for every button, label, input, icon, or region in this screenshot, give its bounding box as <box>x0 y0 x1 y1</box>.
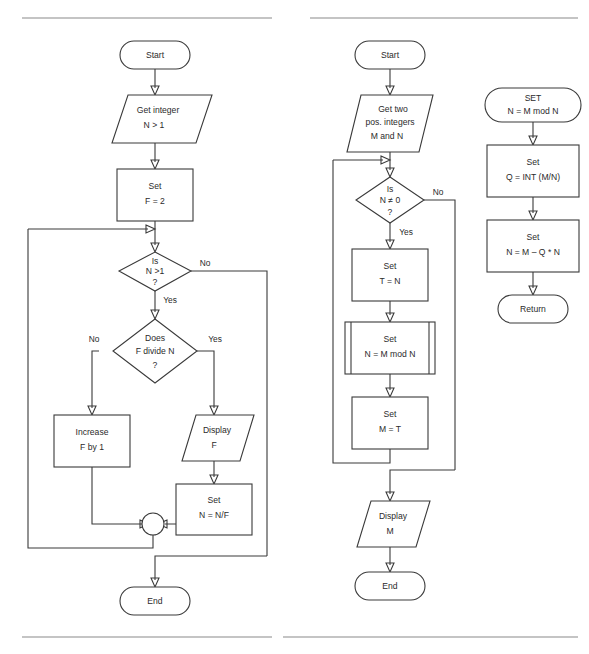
node-label-line-2: Q = INT (M/N) <box>506 172 560 182</box>
node-label-line-2: N = M mod N <box>508 106 559 116</box>
node-f3-set-n[interactable]: Set N = M – Q * N <box>487 220 579 272</box>
node-f2-decision-n-ne-0[interactable]: Is N ≠ 0 ? <box>356 177 424 223</box>
edge-label-f1-dec1-yes: Yes <box>163 295 177 305</box>
node-f3-set-terminal[interactable]: SET N = M mod N <box>485 88 581 122</box>
flowchart-mod-subroutine: SET N = M mod N Set Q = INT (M/N) Set N … <box>485 88 581 323</box>
node-label: Start <box>381 50 400 60</box>
edge-label-f2-dec-yes: Yes <box>399 227 413 237</box>
node-label: End <box>382 581 398 591</box>
node-label-line-1: Set <box>527 232 541 242</box>
node-label: End <box>147 596 163 606</box>
node-f1-get-integer[interactable]: Get integer N > 1 <box>112 95 212 143</box>
node-label-line-2: N = M mod N <box>365 349 416 359</box>
node-label-line-1: Increase <box>76 427 109 437</box>
io-parallelogram-shape <box>182 415 254 461</box>
node-label-line-1: Get integer <box>137 105 180 115</box>
node-f1-end[interactable]: End <box>120 587 190 615</box>
node-label: Return <box>520 304 546 314</box>
node-label-line-1: Set <box>384 409 398 419</box>
node-f2-display-m[interactable]: Display M <box>357 501 430 547</box>
node-label-line-1: Set <box>149 181 163 191</box>
edge-label-f1-dec2-no: No <box>89 334 100 344</box>
node-f2-start[interactable]: Start <box>355 41 425 69</box>
node-label-line-2: N >1 <box>146 266 165 276</box>
node-label-line-2: F by 1 <box>80 442 104 452</box>
node-label: Start <box>146 50 165 60</box>
edge-label-f1-dec2-yes: Yes <box>208 334 222 344</box>
node-f3-return[interactable]: Return <box>498 295 568 323</box>
node-f2-set-t[interactable]: Set T = N <box>352 249 428 301</box>
process-rect-shape <box>487 220 579 272</box>
node-label-line-3: ? <box>388 207 393 217</box>
process-rect-shape <box>117 169 193 221</box>
flowchart-prime-factorization: Start Get integer N > 1 Set F = 2 Is N >… <box>28 41 267 615</box>
node-label-line-1: SET <box>525 93 542 103</box>
node-label-line-2: M = T <box>379 424 402 434</box>
node-label-line-2: pos. integers <box>365 117 414 127</box>
flowchart-canvas: Start Get integer N > 1 Set F = 2 Is N >… <box>0 0 589 654</box>
node-f1-decision-f-divides-n[interactable]: Does F divide N ? <box>113 319 197 383</box>
node-f2-end[interactable]: End <box>355 572 425 600</box>
node-label-line-1: Get two <box>378 104 408 114</box>
node-label-line-1: Does <box>145 333 165 343</box>
io-parallelogram-shape <box>112 95 212 143</box>
node-f2-set-m[interactable]: Set M = T <box>352 397 428 449</box>
node-label-line-2: F divide N <box>136 346 175 356</box>
node-label-line-1: Set <box>384 261 398 271</box>
node-label-line-1: Set <box>384 334 398 344</box>
node-label-line-2: T = N <box>379 276 400 286</box>
predefined-process-rect-shape <box>345 322 435 374</box>
process-rect-shape <box>487 145 579 197</box>
node-label-line-1: Display <box>203 425 232 435</box>
process-rect-shape <box>352 249 428 301</box>
node-label-line-2: N > 1 <box>144 120 165 130</box>
node-label-line-2: F <box>211 440 216 450</box>
node-f1-set-f[interactable]: Set F = 2 <box>117 169 193 221</box>
io-parallelogram-shape <box>357 501 430 547</box>
flowchart-euclidean-gcd: Start Get two pos. integers M and N Is N… <box>333 41 455 600</box>
node-label-line-3: ? <box>153 360 158 370</box>
process-rect-shape <box>54 415 130 467</box>
node-label-line-2: N ≠ 0 <box>380 195 401 205</box>
node-label-line-2: M <box>386 526 393 536</box>
node-label-line-1: Is <box>152 256 159 266</box>
node-f2-get-two-integers[interactable]: Get two pos. integers M and N <box>347 95 433 152</box>
node-label-line-2: F = 2 <box>145 196 165 206</box>
process-rect-shape <box>352 397 428 449</box>
flowchart-page: Start Get integer N > 1 Set F = 2 Is N >… <box>0 0 589 654</box>
node-f1-increase-f[interactable]: Increase F by 1 <box>54 415 130 467</box>
node-f1-merge-connector[interactable] <box>142 513 164 535</box>
node-label-line-3: ? <box>153 277 158 287</box>
node-label-line-1: Set <box>208 495 222 505</box>
node-f1-set-n[interactable]: Set N = N/F <box>176 484 252 535</box>
node-label-line-1: Is <box>387 184 394 194</box>
edge-label-f2-dec-no: No <box>433 187 444 197</box>
node-label-line-3: M and N <box>371 131 403 141</box>
node-label-line-2: N = M – Q * N <box>506 247 560 257</box>
node-f1-decision-n-gt-1[interactable]: Is N >1 ? <box>119 252 191 291</box>
edge-label-f1-dec1-no: No <box>200 258 211 268</box>
node-f1-start[interactable]: Start <box>120 41 190 69</box>
node-f3-set-q[interactable]: Set Q = INT (M/N) <box>487 145 579 197</box>
node-label-line-1: Display <box>379 511 408 521</box>
node-f2-set-n-mod[interactable]: Set N = M mod N <box>345 322 435 374</box>
node-label-line-1: Set <box>527 157 541 167</box>
node-label-line-2: N = N/F <box>199 510 229 520</box>
node-f1-display-f[interactable]: Display F <box>182 415 254 461</box>
